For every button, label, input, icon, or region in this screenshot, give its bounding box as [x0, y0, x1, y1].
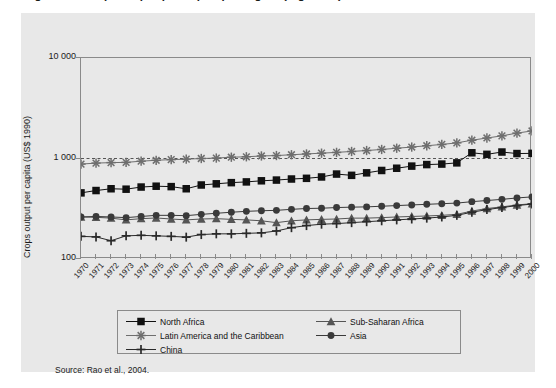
series-marker-circle — [468, 198, 475, 205]
series-marker-plus — [137, 345, 146, 354]
series-marker-circle — [123, 214, 130, 221]
series-marker-asterisk — [152, 156, 161, 165]
series-marker-plus — [122, 231, 131, 240]
series-marker-asterisk — [392, 144, 401, 153]
x-tick-mark — [95, 254, 96, 259]
series-marker-asterisk — [242, 152, 251, 161]
series-marker-square — [288, 175, 296, 183]
x-tick-mark — [275, 254, 276, 259]
legend-item-latin-america-and-the-caribbean[interactable]: Latin America and the Caribbean — [126, 329, 284, 342]
series-marker-asterisk — [347, 147, 356, 156]
series-marker-asterisk — [467, 136, 476, 145]
series-marker-asterisk — [422, 141, 431, 150]
x-tick-mark — [260, 254, 261, 259]
x-tick-mark — [336, 254, 337, 259]
series-marker-square — [468, 149, 476, 157]
series-marker-square — [378, 167, 386, 175]
x-tick-mark — [471, 254, 472, 259]
x-tick-mark — [516, 254, 517, 259]
figure-panel: Crops output per capita (US$ 1990) 10 00… — [21, 13, 535, 372]
x-tick-mark — [321, 254, 322, 259]
series-marker-circle — [393, 202, 400, 209]
series-marker-circle — [198, 211, 205, 218]
series-marker-circle — [514, 195, 521, 202]
legend-item-north-africa[interactable]: North Africa — [126, 315, 204, 328]
series-marker-circle — [363, 203, 370, 210]
series-marker-square — [363, 169, 371, 177]
series-marker-square — [243, 178, 251, 186]
source-note: Source: Rao et al., 2004. — [55, 365, 149, 375]
series-marker-asterisk — [136, 157, 145, 166]
series-marker-circle — [303, 205, 310, 212]
legend-item-sub-saharan-africa[interactable]: Sub-Saharan Africa — [316, 315, 424, 328]
series-marker-triangle — [327, 317, 336, 325]
legend-marker-circle — [316, 330, 346, 341]
series-marker-circle — [328, 332, 335, 339]
x-tick-mark — [80, 254, 81, 259]
y-tick-label: 10 000 — [26, 51, 76, 61]
x-tick-mark — [411, 254, 412, 259]
x-tick-mark — [486, 254, 487, 259]
series-marker-circle — [529, 193, 532, 200]
series-marker-plus — [512, 201, 521, 210]
x-tick-mark — [456, 254, 457, 259]
x-tick-mark — [110, 254, 111, 259]
series-marker-plus — [137, 231, 146, 240]
x-tick-mark — [185, 254, 186, 259]
plot-area — [80, 57, 531, 258]
series-marker-plus — [197, 230, 206, 239]
legend-item-asia[interactable]: Asia — [316, 329, 367, 342]
series-marker-circle — [318, 205, 325, 212]
series-marker-square — [408, 162, 416, 170]
series-marker-square — [198, 181, 206, 189]
series-marker-asterisk — [377, 145, 386, 154]
series-marker-circle — [273, 207, 280, 214]
series-marker-plus — [347, 218, 356, 227]
figure-title-text: Figure 3.3 Crops output per capita per r… — [24, 0, 342, 1]
series-marker-circle — [258, 207, 265, 214]
series-marker-plus — [452, 211, 461, 220]
series-marker-circle — [153, 212, 160, 219]
series-marker-square — [393, 164, 401, 172]
series-marker-asterisk — [332, 148, 341, 157]
series-marker-circle — [243, 208, 250, 215]
series-marker-asterisk — [437, 140, 446, 149]
series-marker-asterisk — [287, 150, 296, 159]
series-marker-square — [303, 175, 311, 183]
series-marker-circle — [138, 213, 145, 220]
series-marker-square — [483, 151, 491, 159]
series-marker-square — [167, 183, 175, 191]
legend-marker-square — [126, 316, 156, 327]
x-tick-mark — [290, 254, 291, 259]
series-marker-square — [182, 185, 190, 193]
legend-label: North Africa — [160, 317, 204, 327]
series-marker-circle — [213, 210, 220, 217]
series-marker-asterisk — [227, 153, 236, 162]
series-marker-asterisk — [512, 128, 521, 137]
series-marker-square — [498, 148, 506, 156]
series-marker-asterisk — [362, 146, 371, 155]
series-marker-asterisk — [167, 155, 176, 164]
figure-root: Figure 3.3 Crops output per capita per r… — [0, 0, 556, 388]
series-marker-asterisk — [317, 149, 326, 158]
x-tick-mark — [396, 254, 397, 259]
series-marker-plus — [482, 205, 491, 214]
x-tick-mark — [230, 254, 231, 259]
series-marker-plus — [227, 229, 236, 238]
x-tick-mark — [381, 254, 382, 259]
series-marker-circle — [408, 201, 415, 208]
series-marker-asterisk — [197, 154, 206, 163]
series-marker-asterisk — [182, 155, 191, 164]
series-marker-square — [273, 176, 281, 184]
series-marker-asterisk — [407, 142, 416, 151]
y-tick-label: 1 000 — [26, 152, 76, 162]
series-marker-asterisk — [257, 151, 266, 160]
legend-marker-asterisk — [126, 330, 156, 341]
x-tick-mark — [245, 254, 246, 259]
series-marker-circle — [498, 196, 505, 203]
chart-legend: North AfricaSub-Saharan AfricaLatin Amer… — [117, 310, 461, 354]
series-marker-square — [528, 150, 532, 158]
legend-item-china[interactable]: China — [126, 343, 182, 356]
series-marker-plus — [497, 203, 506, 212]
x-tick-mark — [200, 254, 201, 259]
